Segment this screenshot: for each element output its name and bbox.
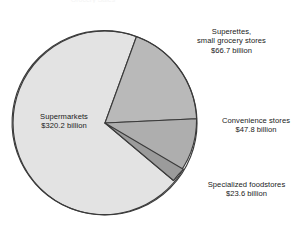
slice-label-specialized-foodstores-value: $23.6 billion	[185, 189, 308, 198]
slice-label-superettes: Superettes, small grocery stores $66.7 b…	[179, 27, 284, 55]
slice-label-convenience-stores-value: $47.8 billion	[204, 125, 308, 134]
slice-label-convenience-stores: Convenience stores $47.8 billion	[204, 116, 308, 135]
slice-label-superettes-name-line2: small grocery stores	[179, 36, 284, 45]
slice-label-supermarkets: Supermarkets $320.2 billion	[18, 112, 110, 131]
slice-label-supermarkets-value: $320.2 billion	[18, 121, 110, 130]
slice-label-convenience-stores-name: Convenience stores	[204, 116, 308, 125]
slice-label-specialized-foodstores-name: Specialized foodstores	[185, 180, 308, 189]
pie-chart-figure: Grocery Sales Supermarkets $320.2 billio…	[0, 0, 308, 231]
slice-label-supermarkets-name: Supermarkets	[18, 112, 110, 121]
slice-label-superettes-value: $66.7 billion	[179, 46, 284, 55]
slice-label-specialized-foodstores: Specialized foodstores $23.6 billion	[185, 180, 308, 199]
slice-label-superettes-name-line1: Superettes,	[179, 27, 284, 36]
